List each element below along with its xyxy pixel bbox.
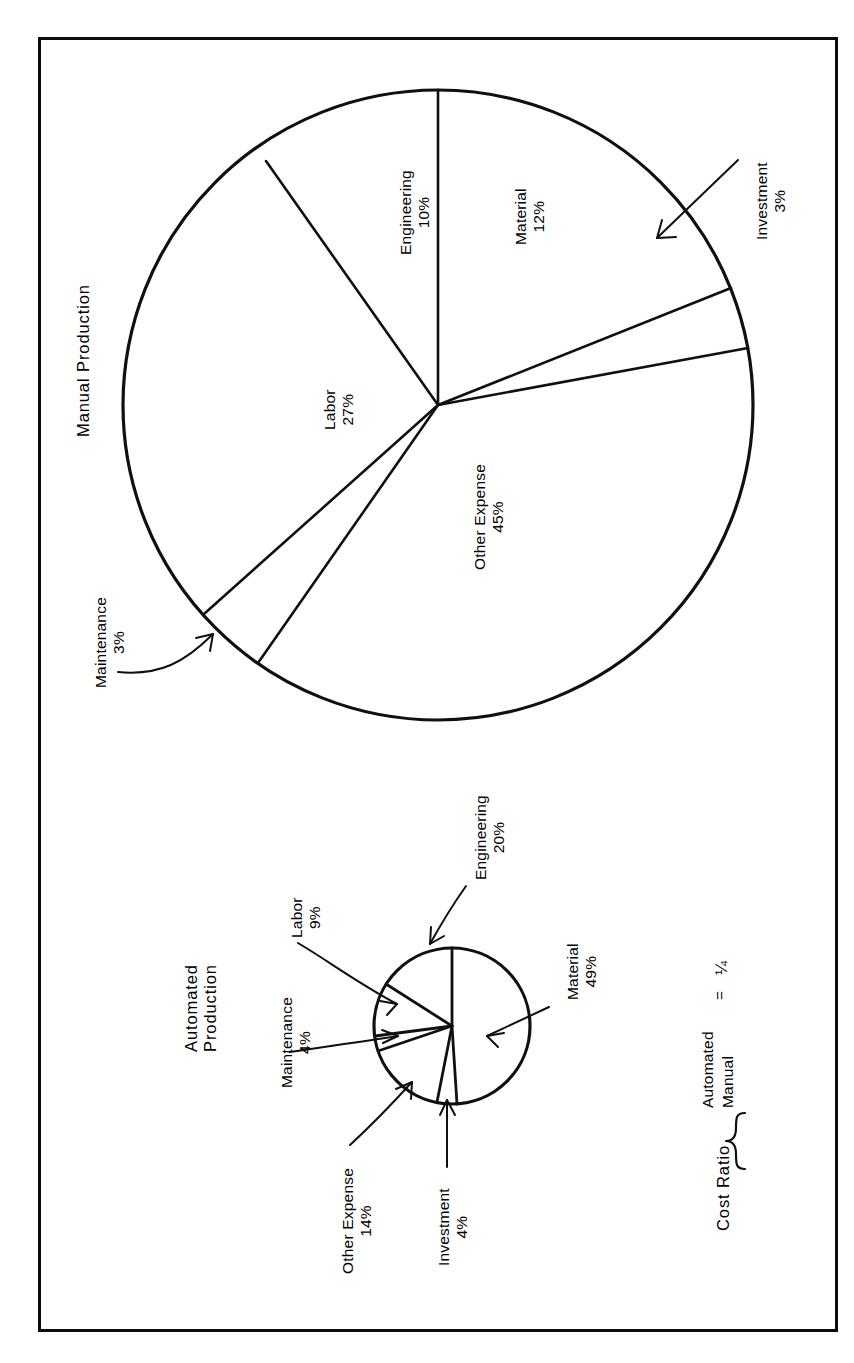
- manual-label-labor: Labor 27%: [321, 389, 357, 430]
- manual-label-other-expense-name: Other Expense: [471, 464, 489, 570]
- automated-label-material: Material 49%: [564, 943, 600, 1000]
- automated-label-labor: Labor 9%: [288, 897, 324, 938]
- automated-labor-arrowhead: [380, 1001, 397, 1015]
- automated-label-investment-pct: 4%: [453, 1188, 471, 1266]
- cost-ratio-label: Cost Ratio: [714, 1145, 733, 1231]
- manual-label-investment: Investment 3%: [753, 162, 789, 240]
- manual-label-other-expense: Other Expense 45%: [471, 464, 507, 570]
- automated-production-title-line2: Production: [201, 964, 220, 1052]
- automated-label-labor-name: Labor: [288, 897, 306, 938]
- manual-label-maintenance: Maintenance 3%: [92, 597, 128, 688]
- automated-label-other-expense: Other Expense 14%: [339, 1168, 375, 1274]
- manual-label-engineering-name: Engineering: [397, 170, 415, 255]
- cost-ratio-equals: =: [711, 991, 729, 1000]
- automated-label-engineering-pct: 20%: [490, 795, 508, 880]
- automated-label-maintenance: Maintenance 4%: [278, 997, 314, 1088]
- manual-maintenance-leader-line: [118, 634, 213, 673]
- manual-label-engineering-pct: 10%: [415, 170, 433, 255]
- manual-slice-edge-other-maintenance: [258, 405, 438, 663]
- manual-label-investment-name: Investment: [753, 162, 771, 240]
- automated-slice-edge-investment-other: [437, 1026, 452, 1102]
- manual-slice-edge-maintenance-labor: [204, 405, 438, 614]
- manual-label-labor-pct: 27%: [339, 389, 357, 430]
- automated-label-engineering: Engineering 20%: [472, 795, 508, 880]
- automated-other-leader-line: [350, 1082, 412, 1145]
- automated-engineering-leader-line: [430, 886, 466, 944]
- manual-label-material-name: Material: [512, 188, 530, 245]
- figure-canvas: Manual Production Engineering 10% Materi…: [0, 0, 854, 1363]
- automated-label-other-expense-pct: 14%: [357, 1168, 375, 1274]
- cost-ratio-value: ¼: [712, 961, 732, 975]
- automated-production-title-line1: Automated: [182, 964, 201, 1052]
- automated-production-title: Automated Production: [182, 964, 220, 1052]
- automated-label-engineering-name: Engineering: [472, 795, 490, 880]
- manual-label-investment-pct: 3%: [771, 162, 789, 240]
- cost-ratio-numerator: Automated: [699, 1031, 717, 1108]
- automated-material-leader-line: [487, 1007, 549, 1036]
- cost-ratio-denominator: Manual: [719, 1056, 737, 1108]
- manual-label-maintenance-pct: 3%: [110, 597, 128, 688]
- automated-label-material-pct: 49%: [582, 943, 600, 1000]
- automated-label-investment: Investment 4%: [435, 1188, 471, 1266]
- automated-slice-edge-material-investment: [452, 1026, 457, 1104]
- manual-slice-edge-material-investment: [438, 288, 731, 405]
- manual-label-other-expense-pct: 45%: [489, 464, 507, 570]
- manual-slice-edge-investment-other: [438, 348, 748, 405]
- manual-label-labor-name: Labor: [321, 389, 339, 430]
- automated-labor-leader-line: [298, 943, 397, 1004]
- automated-label-labor-pct: 9%: [306, 897, 324, 938]
- automated-material-arrowhead: [487, 1033, 504, 1047]
- manual-label-material: Material 12%: [512, 188, 548, 245]
- manual-production-title: Manual Production: [74, 284, 93, 437]
- manual-label-material-pct: 12%: [530, 188, 548, 245]
- automated-label-investment-name: Investment: [435, 1188, 453, 1266]
- automated-label-maintenance-pct: 4%: [296, 997, 314, 1088]
- automated-label-maintenance-name: Maintenance: [278, 997, 296, 1088]
- manual-label-engineering: Engineering 10%: [397, 170, 433, 255]
- automated-label-other-expense-name: Other Expense: [339, 1168, 357, 1274]
- manual-label-maintenance-name: Maintenance: [92, 597, 110, 688]
- automated-label-material-name: Material: [564, 943, 582, 1000]
